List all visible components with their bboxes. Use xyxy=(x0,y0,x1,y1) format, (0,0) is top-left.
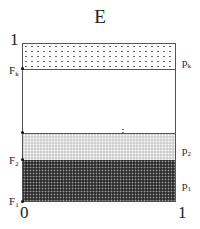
point-fk xyxy=(21,67,24,70)
unit-square xyxy=(22,43,176,202)
x-axis-right-label: 1 xyxy=(178,204,187,221)
label-f1: F1 xyxy=(9,196,19,209)
label-pk: pk xyxy=(182,57,191,70)
band-pk xyxy=(23,44,175,70)
label-f2: F2 xyxy=(9,155,19,168)
y-axis-top-label: 1 xyxy=(10,31,19,48)
band-p2 xyxy=(23,133,175,161)
x-axis-left-label: 0 xyxy=(20,204,29,221)
label-p1: p1 xyxy=(182,180,191,193)
point-upper-p2 xyxy=(21,131,24,134)
label-fk: Fk xyxy=(9,65,19,78)
band-p1 xyxy=(23,160,175,201)
point-f2 xyxy=(21,158,24,161)
diagram-title: E xyxy=(0,6,200,28)
label-p2: p2 xyxy=(182,145,191,158)
